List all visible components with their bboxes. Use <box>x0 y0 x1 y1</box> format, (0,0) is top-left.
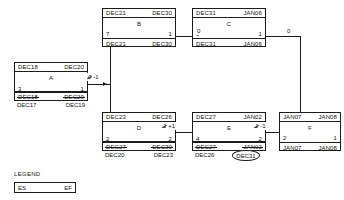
node-e-early-finish: JAN02 <box>243 113 262 121</box>
node-f-dates-top: JAN07 JAN08 <box>280 113 340 122</box>
node-a-late-dates-struck: DEC18 DEC20 <box>14 92 88 101</box>
node-a-late-dates-row: DEC18 DEC20 <box>15 93 87 101</box>
node-d-late-dates-row: DEC27 DEC30 <box>103 143 175 151</box>
node-b-float: 1 <box>169 31 172 38</box>
node-a-late-finish-revised: DEC19 <box>66 101 85 109</box>
lag-d-to-e-revised: +1 <box>168 123 175 129</box>
node-f-duration-row: 2 1 <box>280 135 340 143</box>
node-f-early-finish: JAN08 <box>318 113 337 121</box>
node-a-late-dates-revised: DEC17 DEC19 <box>14 101 88 109</box>
legend-title: LEGEND <box>14 170 40 178</box>
node-a-dates-top: DEC18 DEC20 <box>15 63 87 72</box>
node-e-late-finish-circled: DEC31 <box>232 150 260 161</box>
node-a-label: A <box>15 72 87 85</box>
node-c-early-start: DEC31 <box>196 9 216 17</box>
node-c-name-row: C <box>193 18 265 31</box>
node-c-float: 1 <box>259 31 262 38</box>
node-d-early-start: DEC23 <box>106 113 126 121</box>
node-e-early-start: DEC27 <box>196 113 216 121</box>
node-c-late-start: DEC31 <box>196 40 216 48</box>
link-a-to-b-arrowhead-mid <box>103 82 107 86</box>
legend-early-finish-label: EF <box>64 184 72 192</box>
activity-node-a[interactable]: DEC18 DEC20 A 3 1 <box>14 62 88 92</box>
node-b-duration: 7 <box>106 31 109 38</box>
node-c-dates-top: DEC31 JAN06 <box>193 9 265 18</box>
lag-c-to-f-value: 0 <box>287 28 290 34</box>
node-b-label: B <box>103 18 175 31</box>
lag-d-to-e-struck: 1 <box>163 122 166 130</box>
node-f-late-start: JAN07 <box>283 144 302 152</box>
legend-box: ES EF <box>14 182 76 193</box>
node-d-late-start-revised: DEC20 <box>105 151 124 159</box>
lag-label-c-to-f: 0 <box>286 27 291 35</box>
activity-node-b[interactable]: DEC21 DEC30 B 7 1 DEC21 DEC30 <box>102 8 176 47</box>
node-a-late-start-struck: DEC18 <box>18 93 38 101</box>
lag-label-d-to-e: 1+1 <box>162 122 176 130</box>
node-b-early-finish: DEC30 <box>152 9 172 17</box>
node-a-late-start-revised: DEC17 <box>17 101 36 109</box>
node-d-late-dates-struck: DEC27 DEC30 <box>102 142 176 151</box>
node-a-early-finish: DEC20 <box>64 63 84 71</box>
node-a-name-row: A <box>15 72 87 85</box>
node-e-late-dates-row: DEC27 JAN02 <box>193 143 265 151</box>
node-c-early-finish: JAN06 <box>243 9 262 17</box>
node-b-dates-top: DEC21 DEC30 <box>103 9 175 18</box>
node-f-dates-bottom: JAN07 JAN08 <box>280 143 340 152</box>
lag-a-to-b-revised: -1 <box>93 74 98 80</box>
node-b-late-start: DEC21 <box>106 40 126 48</box>
node-d-late-finish-revised: DEC23 <box>154 151 173 159</box>
lag-label-b-to-c: 0 <box>196 27 201 35</box>
network-diagram-canvas: DEC18 DEC20 A 3 1 DEC18 DEC20 DEC17 DEC1… <box>0 0 344 200</box>
node-d-late-start-struck: DEC27 <box>106 143 126 151</box>
node-a-early-start: DEC18 <box>18 63 38 71</box>
activity-node-c[interactable]: DEC31 JAN06 C 5 1 DEC31 JAN06 <box>192 8 266 47</box>
node-b-dates-bottom: DEC21 DEC30 <box>103 39 175 48</box>
node-b-early-start: DEC21 <box>106 9 126 17</box>
node-f-label: F <box>280 122 340 135</box>
node-b-name-row: B <box>103 18 175 31</box>
node-d-early-finish: DEC26 <box>152 113 172 121</box>
link-c-to-f-segment-h <box>266 36 301 37</box>
node-c-label: C <box>193 18 265 31</box>
activity-node-f[interactable]: JAN07 JAN08 F 2 1 JAN07 JAN08 <box>279 112 341 151</box>
node-b-late-finish: DEC30 <box>152 40 172 48</box>
node-f-early-start: JAN07 <box>283 113 302 121</box>
node-a-late-finish-struck: DEC20 <box>64 93 84 101</box>
node-c-dates-bottom: DEC31 JAN06 <box>193 39 265 48</box>
node-b-duration-row: 7 1 <box>103 31 175 39</box>
node-c-duration-row: 5 1 <box>193 31 265 39</box>
lag-label-e-to-f: 1-1 <box>254 122 267 130</box>
node-f-late-finish: JAN08 <box>318 144 337 152</box>
node-d-late-finish-struck: DEC30 <box>152 143 172 151</box>
node-e-dates-top: DEC27 JAN02 <box>193 113 265 122</box>
node-d-dates-top: DEC23 DEC26 <box>103 113 175 122</box>
lag-e-to-f-revised: -1 <box>260 123 265 129</box>
lag-a-to-b-struck: 0 <box>88 73 91 81</box>
node-e-late-start-revised: DEC26 <box>195 151 214 159</box>
node-c-late-finish: JAN06 <box>243 40 262 48</box>
node-f-name-row: F <box>280 122 340 135</box>
node-d-late-dates-revised: DEC20 DEC23 <box>102 151 176 159</box>
node-e-late-start-struck: DEC27 <box>196 143 216 151</box>
lag-b-to-c-value: 0 <box>197 28 200 34</box>
lag-label-a-to-b: 0-1 <box>87 73 100 81</box>
lag-e-to-f-struck: 1 <box>255 122 258 130</box>
node-f-duration: 2 <box>283 135 286 142</box>
node-e-late-dates-struck: DEC27 JAN02 <box>192 142 266 151</box>
legend-early-start-label: ES <box>18 184 26 192</box>
node-f-float: 1 <box>334 135 337 142</box>
